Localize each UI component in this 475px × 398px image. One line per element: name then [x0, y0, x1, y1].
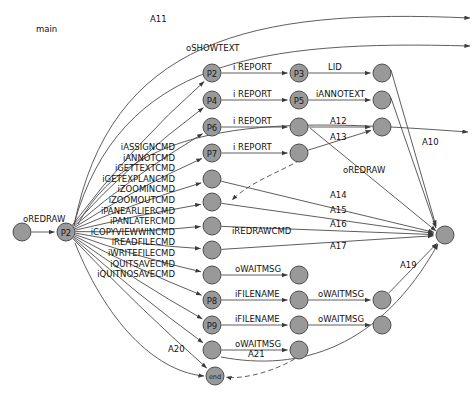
edge-label-a17: A17 [330, 241, 347, 251]
node-label-n_p9: P9 [207, 321, 218, 331]
edge-label-ireport-4: i REPORT [233, 142, 272, 152]
hub-out-label-7: iPANLATERCMD [110, 216, 176, 226]
hub-out-label-0: iASSIGNCMD [121, 142, 176, 152]
edge-label-ireport-1: i REPORT [233, 62, 272, 72]
node-circle-start[interactable] [13, 223, 31, 241]
edge-label-ireport-3: i REPORT [233, 116, 272, 126]
node-circle-n_m8[interactable] [290, 341, 308, 359]
hub-out-label-8: iCOPYVIEWWINCMD [91, 227, 176, 237]
hub-out-label-2: iGETTEXTCMD [115, 163, 176, 173]
node-n_p5[interactable]: P5 [290, 91, 308, 109]
graph-title: main [36, 24, 57, 34]
node-circle-n_c6[interactable] [203, 341, 221, 359]
node-n_r1[interactable] [373, 64, 391, 82]
node-circle-n_c3[interactable] [203, 217, 221, 235]
node-label-n_p7: P7 [207, 149, 218, 159]
edge-label-oshowtext: oSHOWTEXT [186, 43, 240, 53]
node-circle-n_m5[interactable] [290, 266, 308, 284]
edge-label-a11: A11 [150, 14, 167, 24]
node-label-n_p2: P2 [207, 69, 218, 79]
edge-label-oredraw-in: oREDRAW [23, 214, 66, 224]
node-n_p4[interactable]: P4 [203, 91, 221, 109]
node-circle-n_m7[interactable] [290, 316, 308, 334]
node-n_c5[interactable] [203, 266, 221, 284]
node-circle-n_r1[interactable] [373, 64, 391, 82]
edge-label-a20: A20 [168, 344, 185, 354]
hub-out-label-10: iWRITEFILECMD [108, 248, 176, 258]
hub-out-label-9: iREADFILECMD [112, 237, 176, 247]
edge-label-a10: A10 [422, 137, 439, 147]
node-circle-n_sink[interactable] [436, 226, 454, 244]
node-circle-n_r2[interactable] [373, 91, 391, 109]
hub-out-label-12: iQUITNOSAVECMD [97, 269, 175, 279]
node-n_c4[interactable] [203, 241, 221, 259]
node-n_c2[interactable] [203, 193, 221, 211]
node-label-n_p3: P3 [294, 69, 305, 79]
edge-label-ifilename-1: iFILENAME [235, 289, 280, 299]
edge-r1-to-sink-a10 [391, 70, 436, 226]
node-n_c3[interactable] [203, 217, 221, 235]
edge-label-a21: A21 [248, 349, 265, 359]
hub-out-label-1: iANNOTCMD [123, 153, 176, 163]
node-circle-n_r4[interactable] [373, 291, 391, 309]
node-circle-n_c4[interactable] [203, 241, 221, 259]
node-label-hub: P2 [61, 228, 72, 238]
node-n_m7[interactable] [290, 316, 308, 334]
node-n_sink[interactable] [436, 226, 454, 244]
node-circle-n_r3[interactable] [373, 118, 391, 136]
node-circle-n_m6[interactable] [290, 291, 308, 309]
edge-label-a19: A19 [400, 260, 417, 270]
node-n_c6[interactable] [203, 341, 221, 359]
edge-n_c1-to-n_sink [221, 181, 434, 232]
node-n_c1[interactable] [203, 170, 221, 188]
node-n_p3[interactable]: P3 [290, 64, 308, 82]
edge-label-owaitmsg-2: oWAITMSG [318, 289, 364, 299]
hub-out-label-11: iQUITSAVECMD [110, 259, 175, 269]
node-n_r4[interactable] [373, 291, 391, 309]
node-label-n_end: end [209, 373, 221, 381]
node-circle-n_c2[interactable] [203, 193, 221, 211]
edge-label-a16: A16 [330, 219, 347, 229]
node-label-n_p6: P6 [207, 123, 218, 133]
node-label-n_p4: P4 [207, 96, 218, 106]
edge-m3-to-sink-oredraw [310, 128, 436, 231]
edge-label-a15: A15 [330, 205, 347, 215]
node-n_p6[interactable]: P6 [203, 118, 221, 136]
edge-label-a14: A14 [330, 190, 347, 200]
node-n_end[interactable]: end [206, 367, 224, 385]
node-n_p2[interactable]: P2 [203, 64, 221, 82]
node-hub[interactable]: P2 [57, 223, 75, 241]
edge-label-a12: A12 [330, 116, 347, 126]
edge-label-ifilename-2: iFILENAME [235, 314, 280, 324]
edge-label-ireport-2: i REPORT [233, 89, 272, 99]
edge-label-owaitmsg-3: oWAITMSG [318, 314, 364, 324]
node-n_m4[interactable] [290, 144, 308, 162]
node-n_p8[interactable]: P8 [203, 291, 221, 309]
diagram-canvas: P2P2P4P6P7P8P9endP3P5 iASSIGNCMDiANNOTCM… [0, 0, 475, 398]
edge-label-owaitmsg-4: oWAITMSG [235, 339, 281, 349]
edge-label-lid: LID [328, 62, 342, 72]
node-n_p9[interactable]: P9 [203, 316, 221, 334]
node-n_m3[interactable] [290, 118, 308, 136]
node-n_r2[interactable] [373, 91, 391, 109]
edge-r2-to-sink [391, 98, 436, 228]
node-n_p7[interactable]: P7 [203, 144, 221, 162]
node-n_m6[interactable] [290, 291, 308, 309]
hub-out-label-6: iPANEARLIERCMD [101, 206, 176, 216]
hub-out-label-4: iZOOMINCMD [117, 184, 175, 194]
edge-label-oredraw-out: oREDRAW [343, 165, 386, 175]
edge-m4-to-c2-dashed [232, 160, 300, 200]
node-circle-n_m3[interactable] [290, 118, 308, 136]
node-n_r5[interactable] [373, 316, 391, 334]
hub-out-label-5: iZOOMOUTCMD [109, 195, 176, 205]
node-n_r3[interactable] [373, 118, 391, 136]
node-start[interactable] [13, 223, 31, 241]
node-label-n_p8: P8 [207, 296, 218, 306]
node-circle-n_c1[interactable] [203, 170, 221, 188]
node-circle-n_m4[interactable] [290, 144, 308, 162]
edge-n_c4-to-n_sink [221, 236, 433, 250]
node-n_m8[interactable] [290, 341, 308, 359]
node-n_m5[interactable] [290, 266, 308, 284]
node-circle-n_c5[interactable] [203, 266, 221, 284]
node-circle-n_r5[interactable] [373, 316, 391, 334]
